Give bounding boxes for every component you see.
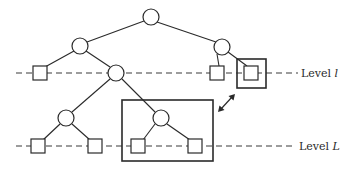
subtree-root-circle (153, 110, 169, 126)
edge-mid-lowleft (72, 79, 110, 112)
edge-mid-sub (122, 79, 155, 112)
level-L-label-var: L (332, 140, 340, 153)
leaf-square (88, 139, 102, 153)
root-node-circle (143, 9, 159, 25)
leaf-square (31, 139, 45, 153)
leaf-square (131, 139, 145, 153)
level-l-label-var: l (335, 67, 339, 80)
edge-sub-leaf4 (167, 124, 190, 140)
internal-nodes (58, 9, 230, 126)
edge-lowleft-leaf2 (72, 124, 90, 140)
level-L-label: Level L (299, 140, 340, 153)
edge-root-left (87, 21, 144, 42)
level-l-label: Level l (301, 67, 339, 80)
leaf-square (188, 139, 202, 153)
edge-sub-leaf3 (143, 124, 155, 140)
boxed-leaf-square (244, 66, 258, 80)
leaf-square (33, 66, 47, 80)
edge-left-mid (86, 51, 110, 67)
internal-node-circle (214, 39, 230, 55)
edge-root-right (157, 22, 216, 42)
edge-lowleft-leaf1 (43, 124, 60, 140)
internal-node-circle (58, 110, 74, 126)
level-L-label-prefix: Level (299, 140, 333, 153)
edge-left-leaf (45, 51, 74, 67)
leaf-square (210, 66, 224, 80)
double-arrow-icon (218, 94, 235, 112)
internal-node-circle (108, 65, 124, 81)
level-l-label-prefix: Level (301, 67, 335, 80)
tree-diagram: Level l Level L (0, 0, 341, 175)
edge-right-leaf (217, 54, 219, 66)
internal-node-circle (72, 38, 88, 54)
